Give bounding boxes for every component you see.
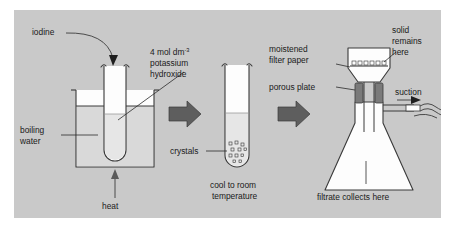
figure-root: iodine 4 mol dm-3 potassium hydroxide bo… (0, 0, 455, 235)
label-cool-line1: cool to room (210, 180, 256, 190)
heat-arrow-head (111, 169, 119, 179)
porous-plate-stopper-right (375, 83, 383, 103)
stage-transition-arrow-1 (169, 101, 201, 127)
label-solid-line1: solid (392, 25, 410, 35)
suction-tube (383, 96, 441, 118)
diagram-canvas: iodine 4 mol dm-3 potassium hydroxide bo… (14, 10, 441, 218)
label-crystals: crystals (170, 146, 198, 156)
iodine-arrow-curve (66, 33, 113, 58)
koh-liquid-fill (105, 114, 125, 160)
label-boiling-water-line1: boiling (20, 125, 45, 135)
label-cool-line2: temperature (212, 191, 257, 201)
label-heat: heat (102, 201, 119, 211)
porous-plate-leader (336, 87, 355, 90)
label-filtrate: filtrate collects here (317, 192, 389, 202)
rubber-tubing-third (414, 114, 437, 118)
side-arm-connector (406, 105, 420, 111)
reagent-value: 4 mol dm (150, 47, 184, 57)
iodine-arrow (66, 33, 118, 66)
conical-flask-outline (325, 102, 413, 190)
label-iodine: iodine (32, 27, 55, 37)
test-tube-stage1 (101, 65, 129, 161)
label-moistened-line2: filter paper (269, 55, 309, 65)
stage-1-heating-apparatus: iodine 4 mol dm-3 potassium hydroxide bo… (19, 27, 189, 211)
rubber-tubing-lower (420, 109, 441, 115)
label-boiling-water-line2: water (19, 136, 41, 146)
label-solid-line2: remains (392, 36, 422, 46)
label-reagent-concentration: 4 mol dm-3 (150, 47, 189, 57)
diagram-panel: iodine 4 mol dm-3 potassium hydroxide bo… (14, 10, 441, 218)
label-reagent-line2: potassium (150, 58, 188, 68)
suction-arrow-head (411, 96, 421, 104)
label-suction: suction (395, 87, 422, 97)
iodine-arrow-head (109, 55, 118, 66)
stage-2-cooling-apparatus: crystals cool to room temperature (170, 64, 257, 201)
porous-plate-stopper-left (355, 83, 363, 103)
cooled-liquid-fill (226, 113, 248, 166)
label-porous-plate: porous plate (269, 82, 315, 92)
heat-arrow (111, 169, 119, 198)
reagent-superscript: -3 (184, 47, 189, 53)
label-reagent-line3: hydroxide (150, 69, 187, 79)
label-moistened-line1: moistened (269, 44, 308, 54)
stage-transition-arrow-2 (278, 101, 310, 127)
label-solid-line3: here (392, 47, 409, 57)
